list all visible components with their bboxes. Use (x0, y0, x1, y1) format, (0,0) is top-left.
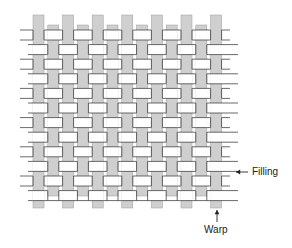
warp-thread (107, 25, 118, 196)
warp-thread (137, 25, 148, 196)
filling-label: Filling (252, 166, 278, 177)
warp-thread (48, 25, 59, 196)
warp-arrow-icon (215, 210, 220, 222)
warp-label: Warp (204, 224, 228, 235)
plain-weave-diagram (0, 0, 292, 248)
warp-thread (196, 25, 207, 196)
warp-thread (166, 25, 177, 196)
warp-thread (77, 25, 88, 196)
